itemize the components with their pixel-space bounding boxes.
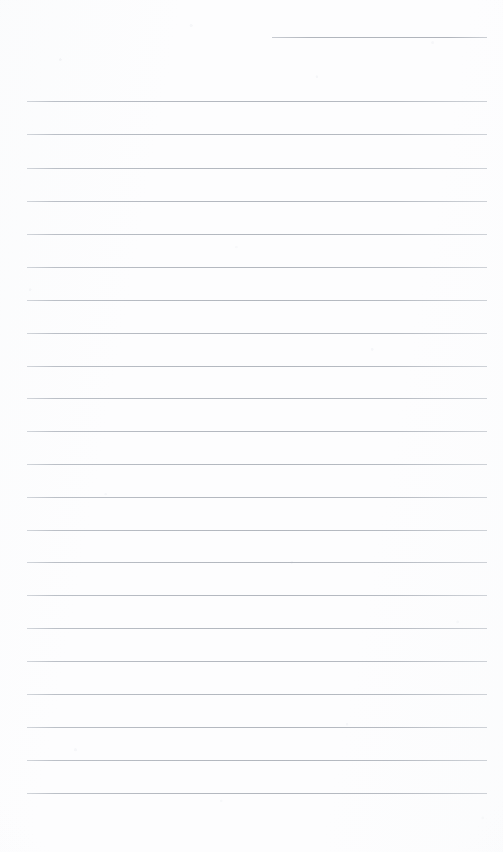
rule-line	[27, 661, 487, 662]
rule-line	[27, 530, 487, 531]
rule-line	[27, 562, 487, 563]
rule-line	[27, 431, 487, 432]
rule-line	[27, 201, 487, 202]
rule-line	[27, 168, 487, 169]
rule-line	[27, 134, 487, 135]
rule-line	[27, 793, 487, 794]
rule-line	[27, 333, 487, 334]
rule-line	[27, 694, 487, 695]
notepad-page	[0, 0, 503, 852]
rule-line	[27, 464, 487, 465]
rule-line	[27, 366, 487, 367]
rule-line	[272, 37, 487, 38]
rule-line	[27, 727, 487, 728]
rule-line	[27, 760, 487, 761]
rule-line	[27, 234, 487, 235]
rule-line	[27, 628, 487, 629]
rule-line	[27, 267, 487, 268]
rule-line	[27, 595, 487, 596]
rule-line	[27, 398, 487, 399]
writing-area[interactable]	[0, 0, 503, 852]
rule-line	[27, 300, 487, 301]
rule-line	[27, 101, 487, 102]
rule-line	[27, 497, 487, 498]
